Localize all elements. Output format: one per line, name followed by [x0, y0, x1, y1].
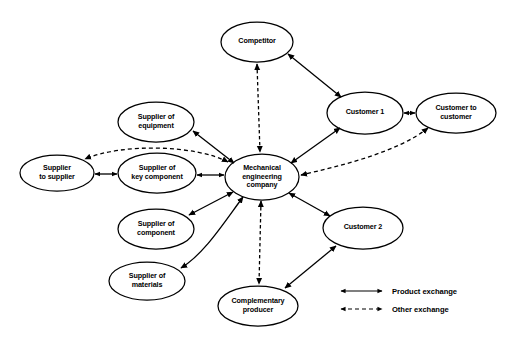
network-diagram: Competitor Customer 1 Customer to custom… [0, 0, 505, 342]
legend-label-product-exchange: Product exchange [392, 287, 457, 296]
node-customer1[interactable] [327, 92, 403, 134]
legend-label-other-exchange: Other exchange [392, 305, 449, 314]
edge-competitor-company[interactable] [257, 64, 260, 152]
node-mechanical-engineering-company[interactable] [225, 154, 299, 200]
node-competitor[interactable] [221, 22, 293, 62]
node-supplier-to-supplier[interactable] [20, 155, 94, 191]
edge-c2c-company[interactable] [301, 128, 428, 175]
node-customer2[interactable] [323, 207, 403, 249]
edge-competitor-customer1[interactable] [288, 54, 341, 97]
node-customer-to-customer[interactable] [416, 93, 496, 133]
node-supplier-materials[interactable] [109, 262, 185, 300]
edge-customer1-company[interactable] [291, 128, 340, 163]
edge-company-complementary-producer[interactable] [259, 201, 261, 284]
edge-company-supplier-component[interactable] [189, 192, 233, 215]
edge-complementary-producer-customer2[interactable] [285, 246, 336, 288]
edge-company-supplier-equipment[interactable] [193, 131, 234, 163]
node-supplier-key-component[interactable] [118, 153, 196, 193]
node-supplier-component[interactable] [118, 209, 194, 249]
node-supplier-equipment[interactable] [118, 102, 194, 142]
node-complementary-producer[interactable] [218, 286, 298, 326]
edge-company-customer2[interactable] [289, 193, 330, 216]
